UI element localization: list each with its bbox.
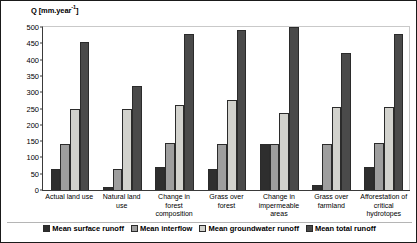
bar[interactable] xyxy=(364,167,374,190)
bar[interactable] xyxy=(260,144,270,190)
y-tick-label: 50 xyxy=(31,169,39,178)
legend-item[interactable]: Mean interflow xyxy=(131,224,193,233)
y-tick-label: 350 xyxy=(26,71,39,80)
x-axis-labels: Actual land useNatural land useChange in… xyxy=(43,192,410,219)
legend-swatch-icon xyxy=(199,225,206,232)
bar-group-bars xyxy=(208,27,247,190)
legend-label: Mean groundwater runoff xyxy=(208,224,298,233)
bar[interactable] xyxy=(60,144,70,190)
y-tick-mark xyxy=(40,190,43,191)
x-axis-label: Afforestation of critical hydrotopes xyxy=(358,192,410,219)
bar[interactable] xyxy=(175,105,185,190)
legend-label: Mean total runoff xyxy=(315,224,376,233)
x-axis-label: Grass over forest xyxy=(200,192,252,219)
legend-item[interactable]: Mean surface runoff xyxy=(43,224,124,233)
y-tick-label: 400 xyxy=(26,55,39,64)
bar-group xyxy=(253,27,305,190)
bar-chart-figure: Q [mm.year-1] 50045040035030025020015010… xyxy=(0,0,417,243)
plot-area: 500450400350300250200150100500 xyxy=(42,27,410,191)
y-tick-label: 150 xyxy=(26,137,39,146)
bar[interactable] xyxy=(80,42,90,190)
legend-label: Mean interflow xyxy=(140,224,193,233)
bar-group xyxy=(201,27,253,190)
bar-group-bars xyxy=(260,27,299,190)
bar[interactable] xyxy=(132,86,142,190)
x-axis-label: Natural land use xyxy=(95,192,147,219)
y-tick-mark xyxy=(40,92,43,93)
x-axis-label: Change in forest composition xyxy=(148,192,200,219)
legend-swatch-icon xyxy=(306,225,313,232)
bar[interactable] xyxy=(270,144,280,190)
chart-legend: Mean surface runoffMean interflowMean gr… xyxy=(1,224,417,233)
y-axis-title-suffix: ] xyxy=(76,6,78,15)
y-tick-mark xyxy=(40,173,43,174)
bar[interactable] xyxy=(341,53,351,190)
bar[interactable] xyxy=(208,169,218,190)
x-axis-label: Actual land use xyxy=(43,192,95,219)
y-tick-label: 100 xyxy=(26,153,39,162)
y-tick-mark xyxy=(40,75,43,76)
bar-group xyxy=(305,27,357,190)
bar[interactable] xyxy=(122,109,132,191)
bar-group xyxy=(96,27,148,190)
bar[interactable] xyxy=(217,144,227,190)
legend-label: Mean surface runoff xyxy=(52,224,124,233)
bar-group-bars xyxy=(312,27,351,190)
bar[interactable] xyxy=(113,169,123,190)
bar-group-bars xyxy=(51,27,90,190)
bar[interactable] xyxy=(237,30,247,190)
bar[interactable] xyxy=(227,100,237,190)
y-tick-label: 200 xyxy=(26,120,39,129)
bar[interactable] xyxy=(322,144,332,190)
y-tick-mark xyxy=(40,141,43,142)
bar[interactable] xyxy=(165,143,175,190)
bar-group-bars xyxy=(364,27,403,190)
y-tick-mark xyxy=(40,27,43,28)
y-tick-label: 250 xyxy=(26,104,39,113)
y-tick-mark xyxy=(40,43,43,44)
y-tick-mark xyxy=(40,157,43,158)
y-tick-mark xyxy=(40,124,43,125)
y-tick-label: 300 xyxy=(26,88,39,97)
legend-item[interactable]: Mean total runoff xyxy=(306,224,376,233)
bar-groups xyxy=(44,27,410,190)
bar-group xyxy=(44,27,96,190)
bar[interactable] xyxy=(332,107,342,190)
y-axis-title: Q [mm.year-1] xyxy=(31,4,78,15)
bar[interactable] xyxy=(289,27,299,190)
y-tick-mark xyxy=(40,108,43,109)
bar[interactable] xyxy=(184,34,194,190)
bar[interactable] xyxy=(51,169,61,190)
bar-group xyxy=(149,27,201,190)
y-tick-label: 0 xyxy=(35,186,39,195)
bar[interactable] xyxy=(384,107,394,190)
y-tick-label: 450 xyxy=(26,39,39,48)
legend-swatch-icon xyxy=(43,225,50,232)
bar-group-bars xyxy=(103,27,142,190)
y-axis-title-prefix: Q [mm.year xyxy=(31,6,71,15)
bar-group-bars xyxy=(155,27,194,190)
legend-divider xyxy=(7,222,412,223)
bar[interactable] xyxy=(374,143,384,190)
legend-swatch-icon xyxy=(131,225,138,232)
bar[interactable] xyxy=(70,109,80,191)
x-axis-label: Grass over farmland xyxy=(305,192,357,219)
bar[interactable] xyxy=(394,34,404,190)
bar[interactable] xyxy=(155,167,165,190)
y-tick-label: 500 xyxy=(26,23,39,32)
bar[interactable] xyxy=(103,187,113,190)
x-axis-label: Change in impermeable areas xyxy=(253,192,305,219)
y-tick-mark xyxy=(40,59,43,60)
bar[interactable] xyxy=(312,185,322,190)
bar[interactable] xyxy=(279,113,289,190)
legend-item[interactable]: Mean groundwater runoff xyxy=(199,224,298,233)
bar-group xyxy=(358,27,410,190)
